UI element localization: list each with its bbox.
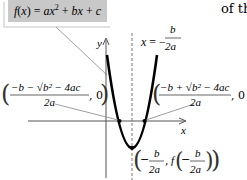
vertex-minus: − — [140, 153, 149, 166]
left-root-numerator: −b − √b² − 4ac — [11, 81, 81, 93]
vertex-fx-minus: − — [181, 153, 190, 166]
callout-leader-line — [56, 27, 107, 75]
left-paren-close: ) — [100, 80, 109, 108]
vertex-paren-close: ) — [211, 146, 220, 174]
y-axis-label: y — [96, 37, 102, 49]
axis-of-symmetry-lhs: x = − — [140, 35, 166, 49]
left-root-point — [118, 119, 122, 123]
left-root-denominator: 2a — [44, 96, 56, 108]
right-root-point — [143, 119, 147, 123]
vertex-x-denominator: 2a — [149, 163, 161, 175]
vertex-x-numerator: b — [154, 147, 160, 159]
x-axis-label: x — [180, 124, 186, 136]
function-label: f(x) = ax2 + bx + c — [14, 3, 102, 18]
side-text: of th — [221, 1, 247, 16]
vertex-comma: , — [165, 154, 169, 167]
right-root-label: ( −b + √b² − 4ac 2a , 0 — [152, 80, 245, 108]
axis-of-symmetry-denominator: 2a — [165, 40, 177, 52]
right-root-denominator: 2a — [190, 96, 202, 108]
left-paren: ( — [1, 80, 10, 108]
right-root-ycoord: , 0 — [231, 89, 245, 102]
right-root-numerator: −b + √b² − 4ac — [160, 81, 230, 93]
axis-of-symmetry-numerator: b — [170, 23, 176, 35]
parabola-diagram: f(x) = ax2 + bx + c of th y x x = − b 2a… — [0, 0, 247, 180]
vertex-label: ( − b 2a , f ( − b 2a ) ) — [133, 146, 220, 175]
vertex-fx-denominator: 2a — [190, 163, 202, 175]
vertex-fx-numerator: b — [195, 147, 201, 159]
